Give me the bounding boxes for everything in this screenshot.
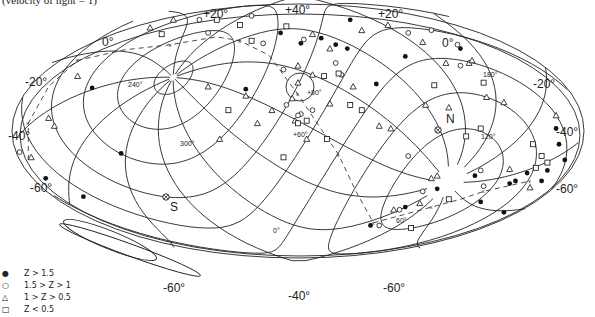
data-point-open-circle (406, 154, 411, 159)
data-point-square (296, 121, 301, 126)
legend-label: 1 > Z > 0.5 (24, 293, 71, 302)
data-point-open-circle (261, 41, 266, 46)
data-point-square (325, 137, 330, 142)
data-point-open-circle (455, 42, 460, 47)
pole-label-n: N (446, 112, 455, 126)
data-point-open-circle (478, 168, 483, 173)
triangle-icon: △ (0, 292, 24, 304)
data-point-filled-circle (502, 210, 507, 215)
track-marker: x (429, 204, 432, 210)
data-point-filled-circle (562, 158, 567, 163)
data-point-open-circle (249, 13, 254, 18)
data-point-open-circle (429, 28, 434, 33)
data-point-square (446, 197, 451, 202)
data-point-open-circle (206, 30, 211, 35)
data-point-open-circle (296, 113, 301, 118)
data-point-triangle (501, 99, 507, 104)
data-point-square (322, 74, 327, 79)
track-marker: x (26, 120, 29, 126)
inner-grid-label: +80° (307, 89, 322, 96)
data-point-square (478, 126, 483, 131)
data-point-filled-circle (435, 186, 440, 191)
data-point-square (530, 142, 535, 147)
track-marker: x (296, 91, 299, 97)
data-point-square (481, 80, 486, 85)
open-circle-icon: ○ (0, 280, 24, 292)
data-point-filled-circle (278, 30, 283, 35)
coordinate-grid (12, 0, 584, 281)
data-point-filled-circle (90, 86, 95, 91)
data-point-filled-circle (348, 17, 353, 22)
data-point-open-circle (406, 30, 411, 35)
data-point-filled-circle (345, 46, 350, 51)
grid-parallel (381, 129, 504, 230)
data-point-triangle (507, 166, 513, 171)
data-point-triangle (327, 46, 333, 51)
data-point-filled-circle (403, 54, 408, 59)
data-point-filled-circle (374, 82, 379, 87)
data-point-square (304, 118, 309, 123)
data-point-filled-circle (507, 181, 512, 186)
data-point-triangle (434, 173, 440, 178)
outer-grid-label: 0° (102, 35, 114, 49)
inner-grid-label: +60° (293, 131, 308, 138)
inner-grid-label: 0° (273, 227, 280, 234)
data-point-triangle (527, 184, 533, 189)
data-point-square (226, 108, 231, 113)
data-point-open-circle (310, 108, 315, 113)
data-point-triangle (147, 25, 153, 30)
data-point-square (464, 134, 469, 139)
data-markers (17, 13, 567, 230)
grid-parallel (22, 28, 568, 229)
data-point-open-circle (17, 150, 22, 155)
data-point-filled-circle (43, 176, 48, 181)
data-point-triangle (75, 73, 81, 78)
data-point-filled-circle (81, 194, 86, 199)
data-point-triangle (295, 63, 301, 68)
data-point-filled-circle (539, 179, 544, 184)
data-point-filled-circle (319, 36, 324, 41)
data-point-filled-circle (525, 171, 530, 176)
data-point-filled-circle (557, 142, 562, 147)
data-point-open-circle (458, 63, 463, 68)
data-point-square (533, 165, 538, 170)
data-point-triangle (51, 123, 57, 128)
data-point-open-circle (333, 61, 338, 66)
data-point-open-circle (284, 103, 289, 108)
data-point-open-circle (377, 223, 382, 228)
outer-grid-label: -60° (30, 181, 52, 195)
data-point-filled-circle (119, 151, 124, 156)
track-marker: x (482, 188, 485, 194)
outer-grid-label: 0° (442, 36, 454, 50)
legend-label: Z < 0.5 (24, 305, 54, 314)
data-point-filled-circle (478, 199, 483, 204)
data-point-filled-circle (545, 168, 550, 173)
data-point-triangle (269, 107, 275, 112)
inner-grid-label: 240° (128, 81, 143, 88)
legend-label: 1.5 > Z > 1 (24, 281, 71, 290)
data-point-square (539, 154, 544, 159)
data-point-filled-circle (513, 179, 518, 184)
outer-grid-label: +40° (285, 3, 310, 17)
inner-grid-label: 300° (180, 140, 195, 147)
legend-item: ●Z > 1.5 (0, 268, 71, 280)
data-point-triangle (254, 120, 260, 125)
outer-grid-label: -60° (163, 281, 185, 295)
sky-map: xxxxxxxxxxNS+20°+40°+20°0°-20°-40°-60°-6… (0, 0, 595, 317)
data-point-triangle (385, 22, 391, 27)
inner-grid-label: 120° (481, 133, 496, 140)
grid-meridian (177, 62, 439, 172)
data-point-triangle (28, 154, 34, 159)
data-point-filled-circle (403, 205, 408, 210)
data-point-open-circle (397, 207, 402, 212)
data-point-square (409, 226, 414, 231)
data-point-triangle (46, 115, 52, 120)
grid-meridian (169, 11, 496, 167)
outer-grid-label: -40° (288, 289, 310, 303)
outer-grid-label: -20° (25, 75, 47, 89)
legend: ●Z > 1.5 ○1.5 > Z > 1 △1 > Z > 0.5 □Z < … (0, 268, 71, 316)
data-point-square (432, 83, 437, 88)
data-point-open-circle (281, 67, 286, 72)
data-point-triangle (359, 27, 365, 32)
data-point-square (545, 160, 550, 165)
